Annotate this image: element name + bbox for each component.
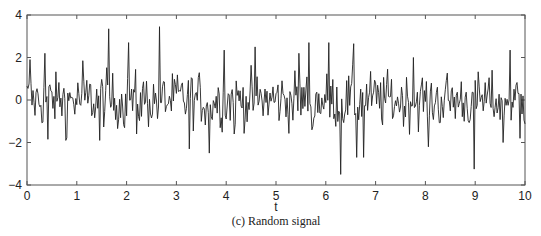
y-tick-label: −4 [8,178,22,192]
y-tick-label: 2 [15,51,22,65]
x-tick-label: 7 [372,189,379,203]
random-signal-chart: 012345678910 −4−2024 t (c) Random signal [0,0,541,236]
plot-area: 012345678910 −4−2024 [8,8,532,203]
x-tick-label: 8 [422,189,429,203]
x-tick-label: 2 [123,189,130,203]
x-tick-label: 3 [173,189,180,203]
x-tick-label: 0 [24,189,31,203]
figure-caption: (c) Random signal [232,214,321,228]
y-tick-label: 0 [15,93,22,107]
x-tick-label: 4 [223,189,230,203]
x-tick-label: 1 [73,189,80,203]
axes-box [27,15,525,185]
y-tick-label: 4 [15,8,22,22]
y-tick-label: −2 [8,136,22,150]
x-tick-label: 6 [322,189,329,203]
x-tick-label: 10 [518,189,532,203]
x-tick-label: 9 [472,189,479,203]
signal-line [27,27,525,175]
